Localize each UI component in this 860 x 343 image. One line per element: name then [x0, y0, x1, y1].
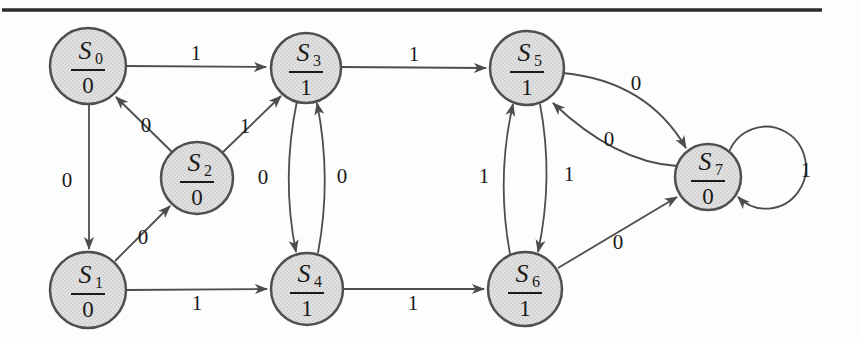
state-name-S2: S: [188, 148, 201, 177]
state-subscript-S1: 1: [95, 274, 103, 291]
state-node-S6: S61: [488, 252, 562, 326]
state-name-S1: S: [79, 260, 92, 289]
state-node-S2: S20: [161, 142, 233, 214]
transition-input-label-S1-S2: 0: [138, 225, 149, 249]
state-subscript-S6: 6: [532, 273, 540, 290]
state-diagram-figure: 1001000111110001 S00S10S20S31S41S51S61S7…: [0, 0, 860, 343]
state-node-S3: S31: [271, 33, 341, 103]
state-name-S6: S: [516, 259, 529, 288]
state-output-S4: 1: [301, 296, 313, 321]
transition-input-label-S7-S5: 0: [604, 127, 615, 151]
state-subscript-S0: 0: [95, 50, 103, 67]
state-subscript-S7: 7: [715, 161, 723, 178]
transition-input-label-S3-S4: 0: [258, 165, 269, 189]
state-output-S5: 1: [521, 75, 533, 100]
transition-input-label-S3-S5: 1: [409, 42, 420, 66]
state-output-S2: 0: [191, 185, 203, 210]
state-diagram-svg: 1001000111110001 S00S10S20S31S41S51S61S7…: [0, 0, 860, 343]
state-subscript-S2: 2: [204, 162, 212, 179]
transition-input-label-S0-S1: 0: [62, 168, 73, 192]
state-output-S0: 0: [82, 73, 94, 98]
transition-input-label-S2-S0: 0: [141, 113, 152, 137]
transition-input-label-S5-S6: 1: [564, 162, 575, 186]
state-name-S5: S: [518, 38, 531, 67]
state-output-S3: 1: [300, 75, 312, 100]
transition-input-label-S0-S3: 1: [191, 41, 202, 65]
state-output-S6: 1: [519, 296, 531, 321]
transition-edge-S3-S5: [341, 67, 486, 68]
transition-input-label-S6-S7: 0: [613, 230, 624, 254]
state-output-S1: 0: [82, 297, 94, 322]
transition-input-label-S4-S3: 0: [337, 164, 348, 188]
transition-input-label-S7-S7: 1: [801, 158, 812, 182]
state-node-S4: S41: [271, 253, 343, 325]
state-name-S4: S: [298, 259, 311, 288]
state-name-S7: S: [699, 147, 712, 176]
state-subscript-S5: 5: [534, 52, 542, 69]
transition-input-label-S2-S3: 1: [240, 114, 251, 138]
transition-input-label-S1-S4: 1: [192, 291, 203, 315]
state-node-S1: S10: [50, 252, 126, 328]
state-subscript-S4: 4: [314, 273, 322, 290]
transition-edge-S0-S3: [126, 66, 266, 67]
state-name-S0: S: [79, 36, 92, 65]
state-node-S0: S00: [50, 28, 126, 104]
transition-input-label-S6-S5: 1: [479, 164, 490, 188]
state-output-S7: 0: [702, 184, 714, 209]
transition-edge-S1-S4: [127, 289, 267, 290]
transition-input-label-S4-S6: 1: [408, 291, 419, 315]
state-node-S5: S51: [490, 31, 564, 105]
state-node-S7: S70: [675, 144, 741, 210]
transition-input-label-S5-S7: 0: [631, 71, 642, 95]
state-name-S3: S: [297, 38, 310, 67]
state-subscript-S3: 3: [313, 52, 321, 69]
